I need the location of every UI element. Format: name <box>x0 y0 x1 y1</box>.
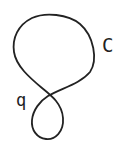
curve-label-c: C <box>102 36 113 55</box>
closed-curve <box>0 0 129 153</box>
point-label-q: q <box>16 92 26 109</box>
curve-c-path <box>14 15 94 139</box>
diagram-canvas: C q <box>0 0 129 153</box>
